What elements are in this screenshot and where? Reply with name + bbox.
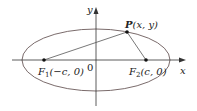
x-axis-arrow-icon [179, 58, 186, 63]
point-f2 [144, 58, 148, 62]
ellipse-diagram: y x 0 P(x, y) F1(−c, 0) F2(c, 0) [0, 0, 197, 111]
origin-label: 0 [87, 62, 93, 73]
y-axis-label: y [86, 4, 93, 15]
x-axis-label: x [180, 65, 186, 76]
point-f2-label: F2(c, 0) [128, 66, 167, 79]
y-axis-arrow-icon [94, 7, 99, 14]
point-f1-label: F1(−c, 0) [37, 66, 84, 79]
point-p-label: P(x, y) [124, 19, 158, 30]
point-p [125, 30, 129, 34]
point-f1 [42, 58, 46, 62]
segment-f1-p [44, 32, 127, 60]
